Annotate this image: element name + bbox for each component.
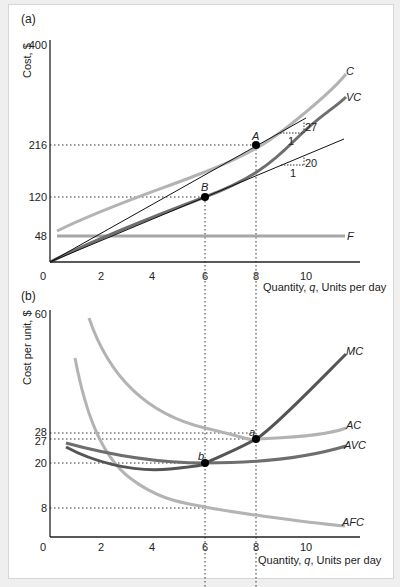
panel-a: (a) Cost, $ 27 1 20 1 A xyxy=(21,12,387,587)
panel-b-tag: (b) xyxy=(21,289,36,303)
average-fixed-cost-curve xyxy=(75,358,345,526)
x-tick-4: 4 xyxy=(149,270,155,282)
tangent-line-B xyxy=(50,139,344,262)
y-tick-27: 27 xyxy=(35,435,47,447)
y-tick-8: 8 xyxy=(41,502,47,514)
point-A xyxy=(252,141,260,149)
slope-A-rise-label: 27 xyxy=(305,121,317,133)
x-tick-2-b: 2 xyxy=(98,541,104,553)
point-B-label: B xyxy=(201,181,208,193)
x-tick-6-b: 6 xyxy=(202,541,208,553)
panel-b-x-axis-label: Quantity, q, Units per day xyxy=(258,554,382,566)
slope-B-rise-label: 20 xyxy=(305,157,317,169)
y-tick-60: 60 xyxy=(35,308,47,320)
cost-curves-figure: (a) Cost, $ 27 1 20 1 A xyxy=(0,0,400,587)
y-tick-120: 120 xyxy=(29,191,47,203)
x-tick-2: 2 xyxy=(98,270,104,282)
label-F: F xyxy=(347,230,355,242)
slope-A-run-label: 1 xyxy=(288,135,294,147)
x-tick-8: 8 xyxy=(253,270,259,282)
y-tick-400: 400 xyxy=(29,39,47,51)
point-A-label: A xyxy=(251,130,259,142)
panel-b-y-axis-label: Cost per unit, $ xyxy=(21,310,33,385)
label-AC: AC xyxy=(345,419,361,431)
label-AFC: AFC xyxy=(341,516,364,528)
y-tick-20: 20 xyxy=(35,457,47,469)
label-AVC: AVC xyxy=(343,439,366,451)
label-MC: MC xyxy=(346,345,363,357)
y-tick-216: 216 xyxy=(29,139,47,151)
tangent-line-A xyxy=(50,118,306,262)
x-tick-0: 0 xyxy=(40,270,46,282)
x-tick-8-b: 8 xyxy=(253,541,259,553)
x-tick-10-b: 10 xyxy=(300,541,312,553)
panel-b: (b) Cost per unit, $ a b MC AC AVC AFC xyxy=(21,289,382,566)
x-tick-0-b: 0 xyxy=(40,541,46,553)
label-C: C xyxy=(346,65,354,77)
total-cost-curve xyxy=(57,74,346,231)
point-a-label: a xyxy=(249,426,255,438)
point-b-label: b xyxy=(198,450,204,462)
slope-B-run-label: 1 xyxy=(290,167,296,179)
label-VC: VC xyxy=(346,91,361,103)
x-tick-4-b: 4 xyxy=(149,541,155,553)
average-cost-curve xyxy=(89,318,346,440)
point-B xyxy=(201,193,209,201)
panel-a-tag: (a) xyxy=(21,12,36,26)
panel-a-x-axis-label: Quantity, q, Units per day xyxy=(263,281,387,293)
panel-a-reference-lines xyxy=(50,145,256,587)
x-tick-6: 6 xyxy=(202,270,208,282)
y-tick-48: 48 xyxy=(35,230,47,242)
